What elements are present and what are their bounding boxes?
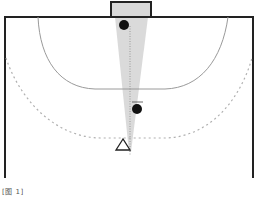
handball-court-diagram (0, 0, 256, 197)
figure-caption: [图 1] (2, 186, 24, 196)
goal (111, 2, 151, 17)
goalkeeper-dot (119, 20, 129, 30)
defender-dot (132, 104, 142, 114)
shot-cone (115, 17, 148, 152)
